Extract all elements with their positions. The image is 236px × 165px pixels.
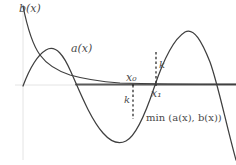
min-curve-label: min (a(x), b(x)): [146, 113, 222, 123]
curve-label-b: b(x): [19, 3, 41, 14]
x0-label: x₀: [126, 72, 137, 83]
x0-tick-dot: [132, 84, 134, 86]
x1-label: x₁: [151, 88, 162, 99]
plot-canvas: [0, 0, 236, 165]
k-upper-label: k: [159, 60, 165, 70]
curve-label-a: a(x): [71, 43, 92, 54]
function-plot-figure: b(x) a(x) x₀ x₁ k k min (a(x), b(x)): [0, 0, 236, 165]
k-lower-label: k: [124, 95, 130, 105]
x1-tick-dot: [155, 84, 157, 86]
